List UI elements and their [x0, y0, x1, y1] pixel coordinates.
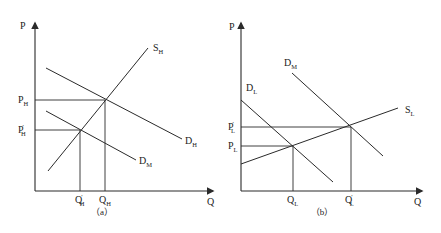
panel-a-label-sh: SH	[153, 42, 164, 55]
panel-b: P Q DM DL SL P′L PL QL Q′L （b）	[228, 21, 422, 217]
panel-a-supply-curve-sh	[48, 48, 148, 171]
panel-b-label-ql: QL	[287, 194, 298, 207]
panel-b-label-dm: DM	[284, 57, 297, 70]
panel-a-label-ph: PH	[18, 94, 29, 107]
panel-b-label-pl: PL	[228, 140, 238, 153]
panel-a: P Q SH DH DM PH P′H Q′H QH （a）	[18, 20, 215, 217]
panel-b-x-axis-label: Q	[414, 196, 422, 207]
panel-b-label-dl: DL	[246, 82, 257, 95]
panel-b-y-axis-label: P	[229, 21, 235, 32]
panel-b-label-sl: SL	[405, 104, 415, 117]
panel-b-demand-curve-dm	[292, 73, 383, 156]
panel-b-supply-curve-sl	[241, 108, 398, 164]
panel-b-label-ql-prime: Q′L	[345, 193, 354, 207]
panel-a-demand-curve-dh	[46, 68, 182, 139]
panel-a-x-axis-label: Q	[207, 196, 215, 207]
panel-a-y-axis-label: P	[20, 20, 26, 31]
diagram-canvas: P Q SH DH DM PH P′H Q′H QH （a） P Q	[0, 0, 441, 233]
panel-a-label-qh: QH	[99, 194, 111, 207]
panel-b-caption: （b）	[311, 207, 334, 217]
panel-b-demand-curve-dl	[241, 100, 333, 182]
panel-b-label-pl-prime: P′L	[228, 120, 235, 134]
panel-a-label-dh: DH	[185, 135, 197, 148]
panel-a-label-qh-prime: Q′H	[75, 193, 85, 207]
panel-a-label-ph-prime: P′H	[18, 123, 26, 137]
panel-a-caption: （a）	[91, 207, 113, 217]
panel-a-label-dm: DM	[139, 155, 152, 168]
